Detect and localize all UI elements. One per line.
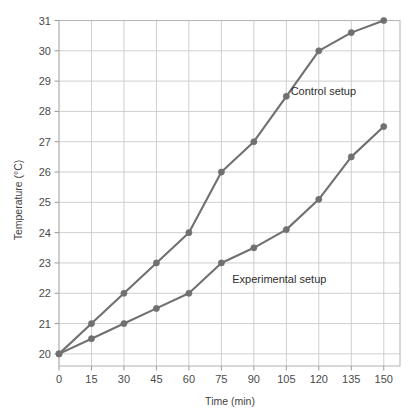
series-annotation-label: Control setup xyxy=(291,85,356,97)
y-tick-label: 29 xyxy=(39,75,51,87)
data-point-marker xyxy=(218,260,224,266)
data-point-marker xyxy=(186,290,192,296)
data-point-marker xyxy=(88,320,94,326)
y-tick-label: 27 xyxy=(39,136,51,148)
data-point-marker xyxy=(283,93,289,99)
data-point-marker xyxy=(348,30,354,36)
y-tick-label: 21 xyxy=(39,318,51,330)
y-tick-label: 20 xyxy=(39,348,51,360)
data-point-marker xyxy=(348,154,354,160)
x-tick-label: 90 xyxy=(248,373,260,385)
data-point-marker xyxy=(121,290,127,296)
data-point-marker xyxy=(381,17,387,23)
x-tick-label: 75 xyxy=(215,373,227,385)
x-tick-label: 105 xyxy=(277,373,295,385)
x-tick-label: 135 xyxy=(342,373,360,385)
x-tick-label: 30 xyxy=(118,373,130,385)
x-tick-label: 45 xyxy=(150,373,162,385)
y-tick-label: 25 xyxy=(39,196,51,208)
y-tick-label: 31 xyxy=(39,15,51,27)
data-point-marker xyxy=(186,230,192,236)
data-point-marker xyxy=(316,48,322,54)
x-tick-label: 15 xyxy=(85,373,97,385)
data-point-marker xyxy=(88,336,94,342)
chart-canvas: 202122232425262728293031 015304560759010… xyxy=(0,0,418,412)
y-axis-title: Temperature (°C) xyxy=(12,160,24,241)
data-point-marker xyxy=(316,196,322,202)
data-point-marker xyxy=(56,351,62,357)
x-axis-title: Time (min) xyxy=(205,395,255,407)
data-point-marker xyxy=(381,123,387,129)
line-chart: 202122232425262728293031 015304560759010… xyxy=(0,0,418,412)
data-point-marker xyxy=(283,227,289,233)
y-tick-label: 22 xyxy=(39,287,51,299)
y-tick-label: 24 xyxy=(39,227,51,239)
data-point-marker xyxy=(251,139,257,145)
data-point-marker xyxy=(153,305,159,311)
data-point-marker xyxy=(153,260,159,266)
y-tick-label: 28 xyxy=(39,105,51,117)
y-tick-label: 23 xyxy=(39,257,51,269)
data-point-marker xyxy=(218,169,224,175)
x-tick-label: 150 xyxy=(375,373,393,385)
data-point-marker xyxy=(121,320,127,326)
x-tick-label: 120 xyxy=(310,373,328,385)
x-tick-label: 60 xyxy=(183,373,195,385)
y-tick-label: 30 xyxy=(39,45,51,57)
data-point-marker xyxy=(251,245,257,251)
series-annotation-label: Experimental setup xyxy=(232,273,326,285)
x-tick-label: 0 xyxy=(56,373,62,385)
y-tick-label: 26 xyxy=(39,166,51,178)
